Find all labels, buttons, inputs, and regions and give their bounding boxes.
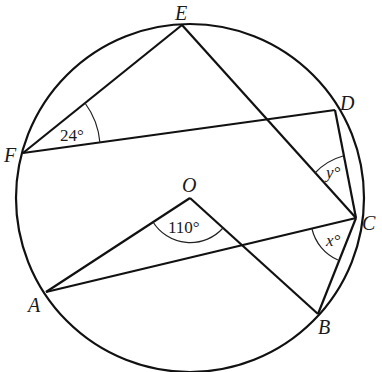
label-point-b: B	[318, 316, 330, 338]
label-point-c: C	[362, 212, 376, 234]
segment-oa	[46, 198, 190, 292]
label-point-e: E	[174, 2, 187, 24]
segment-ac	[46, 218, 356, 292]
label-point-d: D	[339, 92, 355, 114]
label-point-f: F	[3, 144, 17, 166]
angle-label-x: x°	[325, 231, 341, 250]
angle-label-110: 110°	[168, 218, 200, 237]
circle-geometry-diagram: E F D C O A B 24° 110° y° x°	[0, 0, 382, 372]
segment-ec	[182, 25, 356, 218]
label-point-o: O	[182, 174, 196, 196]
angle-label-24: 24°	[60, 126, 84, 145]
label-point-a: A	[26, 294, 41, 316]
angle-label-y: y°	[324, 163, 341, 182]
segment-ob	[190, 198, 318, 314]
angle-arc-f	[85, 103, 100, 143]
